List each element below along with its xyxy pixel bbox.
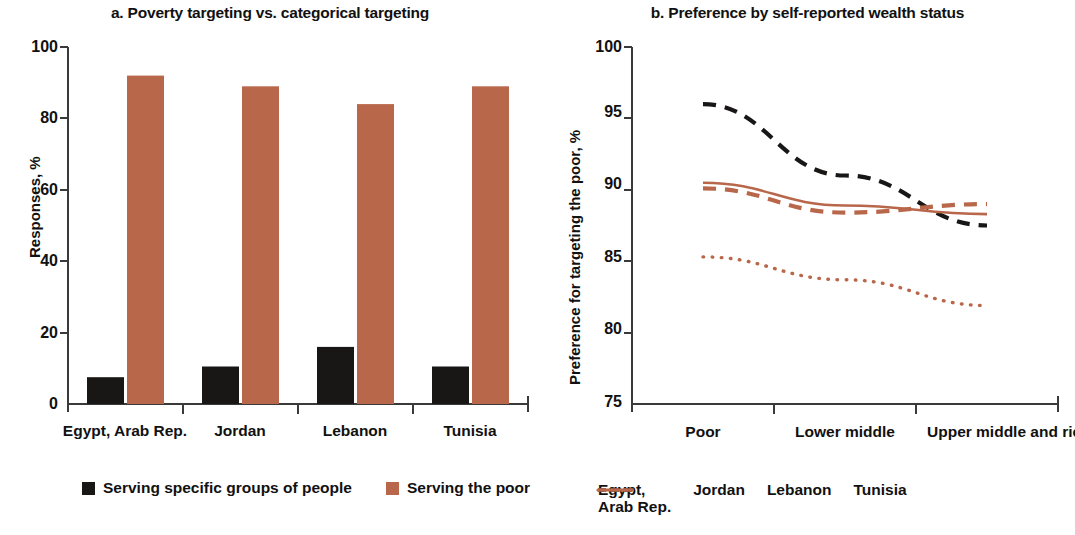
panel-a-legend-item-serving-poor[interactable]: Serving the poor xyxy=(386,479,530,496)
panel-a-category-tunisia: Tunisia xyxy=(410,422,530,439)
panel-b-legend-label-lebanon: Lebanon xyxy=(767,481,832,498)
panel-b-category-poor: Poor xyxy=(643,423,763,440)
bar xyxy=(242,86,279,404)
square-swatch-icon xyxy=(82,482,95,495)
panel-a-legend: Serving specific groups of people Servin… xyxy=(82,479,530,496)
panel-a-plot xyxy=(0,0,540,535)
panel-a-category-jordan: Jordan xyxy=(180,422,300,439)
square-swatch-icon xyxy=(386,482,399,495)
bar xyxy=(317,347,354,404)
dashed-line-terracotta-icon xyxy=(598,483,634,497)
panel-a-legend-item-specific-groups[interactable]: Serving specific groups of people xyxy=(82,479,352,496)
panel-b-legend: Egypt, Arab Rep. Jordan Lebanon Tunisia xyxy=(598,481,907,515)
panel-b-legend-item-lebanon[interactable]: Lebanon xyxy=(767,481,832,498)
bar xyxy=(472,86,509,404)
panel-b-legend-label-tunisia: Tunisia xyxy=(854,481,907,498)
panel-a-bars xyxy=(87,76,509,404)
panel-b-plot xyxy=(540,0,1075,535)
panel-b-category-upper-middle: Upper middle and rich xyxy=(927,423,1047,440)
panel-b-legend-label-jordan: Jordan xyxy=(693,481,745,498)
panel-b-legend-item-tunisia[interactable]: Tunisia xyxy=(854,481,907,498)
panel-a-legend-label-specific-groups: Serving specific groups of people xyxy=(103,479,352,496)
bar xyxy=(357,104,394,404)
bar xyxy=(87,377,124,404)
panel-b-category-lower-middle: Lower middle xyxy=(785,423,905,440)
series-line xyxy=(703,188,987,212)
panel-a-category-egypt: Egypt, Arab Rep. xyxy=(55,422,195,439)
panel-a-bar-chart: a. Poverty targeting vs. categorical tar… xyxy=(0,0,540,535)
bar xyxy=(432,367,469,405)
panel-b-axes xyxy=(624,47,1058,414)
bar xyxy=(127,76,164,404)
panel-b-series-lines xyxy=(703,104,987,305)
panel-b-legend-item-jordan[interactable]: Jordan xyxy=(693,481,745,498)
figure-root: a. Poverty targeting vs. categorical tar… xyxy=(0,0,1075,535)
series-line xyxy=(703,257,987,306)
panel-a-legend-label-serving-poor: Serving the poor xyxy=(407,479,530,496)
panel-b-line-chart: b. Preference by self-reported wealth st… xyxy=(540,0,1075,535)
bar xyxy=(202,367,239,405)
panel-a-category-lebanon: Lebanon xyxy=(295,422,415,439)
series-line xyxy=(703,183,987,214)
